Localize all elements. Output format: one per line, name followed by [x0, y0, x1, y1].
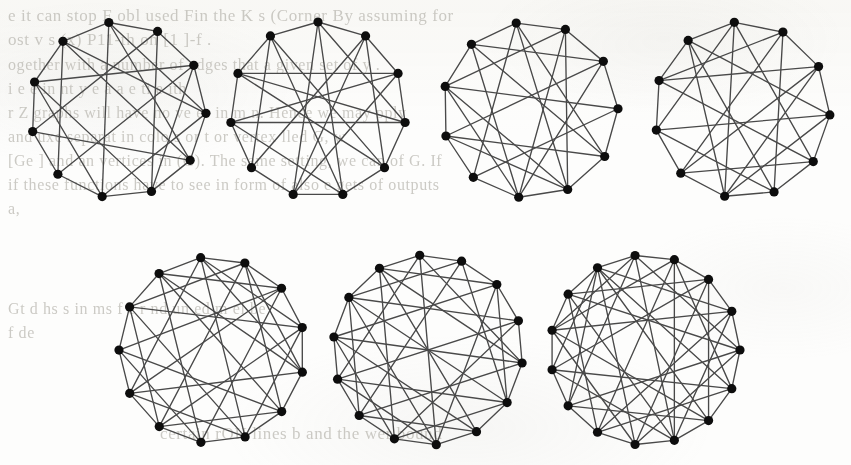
graph-vertex — [104, 18, 113, 27]
graph-edge — [338, 379, 437, 445]
graph-edge — [159, 258, 201, 274]
graph-vertex — [600, 152, 609, 161]
graph-edge — [63, 22, 109, 41]
graph-vertex — [147, 187, 156, 196]
graph-vertex — [355, 411, 364, 420]
graph-vertex — [503, 398, 512, 407]
edge-group — [231, 22, 405, 194]
graph-edge — [35, 82, 152, 191]
graph-edge — [568, 294, 740, 350]
graph-vertex — [196, 438, 205, 447]
graph-vertex — [518, 358, 527, 367]
graph-edge — [349, 297, 359, 415]
graph-vertex — [547, 326, 556, 335]
graph-edge — [158, 31, 194, 65]
graph-vertex — [432, 440, 441, 449]
graph-edge — [349, 261, 462, 297]
graph-edge — [379, 255, 419, 268]
graph-vertex — [547, 365, 556, 374]
graph-vertex — [247, 163, 256, 172]
graph-edge — [471, 23, 516, 44]
graph-vertex — [390, 434, 399, 443]
graph-vertex — [704, 416, 713, 425]
graph-vertex — [492, 280, 501, 289]
graph-vertex — [125, 302, 134, 311]
graph-edge — [245, 328, 302, 437]
graph-vertex — [125, 389, 134, 398]
graph-vertex — [563, 185, 572, 194]
graph-edge — [436, 432, 476, 445]
graph-edge — [194, 65, 206, 113]
graph-edge — [598, 260, 675, 433]
graph-canvas-5 — [105, 243, 319, 457]
graph-vertex — [512, 18, 521, 27]
graph-edge — [568, 256, 635, 406]
graph-vertex — [240, 432, 249, 441]
graph-canvas-3 — [428, 8, 632, 212]
graph-vertex — [564, 290, 573, 299]
graph-vertex — [28, 127, 37, 136]
graph-vertex — [730, 18, 739, 27]
graph-edge — [635, 256, 740, 350]
graph-edge — [238, 73, 405, 122]
graph-edge — [681, 162, 814, 174]
graph-vertex — [814, 62, 823, 71]
graph-edge — [102, 22, 109, 196]
graph-edge — [598, 432, 636, 444]
vertex-group — [28, 18, 210, 201]
graph-drawing-7 — [536, 241, 754, 459]
graph-edge — [568, 350, 740, 406]
graph-vertex — [472, 427, 481, 436]
graph-vertex — [277, 407, 286, 416]
graph-vertex — [361, 31, 370, 40]
graph-vertex — [153, 27, 162, 36]
graph-edge — [251, 168, 293, 195]
graph-vertex — [333, 375, 342, 384]
graph-vertex — [514, 316, 523, 325]
graph-edge — [725, 192, 774, 196]
graph-vertex — [298, 368, 307, 377]
graph-edge — [251, 36, 270, 168]
graph-edge — [656, 81, 659, 131]
graph-vertex — [735, 345, 744, 354]
graph-edge — [445, 86, 446, 136]
graph-canvas-2 — [216, 8, 420, 212]
graph-edge — [251, 36, 365, 168]
graph-edge — [568, 268, 597, 406]
graph-edge — [385, 123, 406, 168]
graph-edge — [151, 31, 157, 191]
graph-vertex — [30, 77, 39, 86]
graph-vertex — [561, 25, 570, 34]
graph-edge — [519, 190, 568, 198]
graph-edge — [605, 109, 618, 157]
graph-edge — [659, 67, 818, 81]
graph-edge — [338, 379, 508, 402]
graph-edge — [774, 162, 813, 192]
graph-edge — [445, 86, 618, 108]
graph-edge — [270, 36, 384, 168]
graph-vertex — [114, 346, 123, 355]
graph-edge — [473, 23, 516, 177]
graph-edge — [681, 67, 819, 174]
graph-vertex — [593, 428, 602, 437]
graph-edge — [674, 260, 731, 389]
graph-vertex — [720, 192, 729, 201]
graph-edge — [130, 307, 246, 437]
graph-edge — [343, 168, 385, 195]
graph-edge — [734, 22, 783, 32]
graph-vertex — [233, 69, 242, 78]
graph-vertex — [338, 190, 347, 199]
graph-edge — [282, 288, 303, 327]
graph-edge — [783, 32, 819, 67]
graph-vertex — [769, 187, 778, 196]
edge-group — [552, 256, 740, 445]
graph-vertex — [240, 258, 249, 267]
graph-vertex — [727, 384, 736, 393]
graph-vertex — [226, 118, 235, 127]
graph-edge — [819, 67, 830, 115]
edge-group — [119, 258, 302, 443]
graph-edge — [635, 256, 674, 260]
graph-edge — [33, 132, 58, 175]
graph-edge — [270, 22, 318, 36]
graph-vertex — [676, 169, 685, 178]
